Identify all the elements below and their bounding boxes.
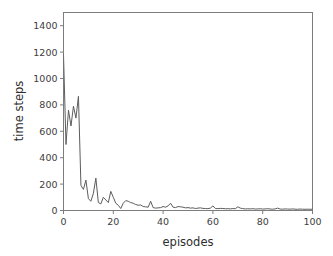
x-tick-label: 40: [157, 216, 169, 227]
x-tick-label: 0: [60, 216, 66, 227]
x-tick-label: 100: [303, 216, 321, 227]
chart-figure: 0200400600800100012001400 020406080100 e…: [0, 0, 333, 256]
y-tick-label: 600: [39, 126, 57, 137]
x-axis-title: episodes: [163, 235, 214, 249]
y-axis-title: time steps: [12, 81, 26, 142]
x-tick-label: 20: [107, 216, 119, 227]
y-tick-label: 1200: [33, 47, 57, 58]
y-tick-label: 400: [39, 152, 57, 163]
x-tick-label: 60: [207, 216, 219, 227]
y-tick-label: 1000: [33, 73, 57, 84]
y-tick-label: 0: [51, 205, 57, 216]
x-tick-label: 80: [257, 216, 269, 227]
y-tick-label: 1400: [33, 20, 57, 31]
y-tick-label: 800: [39, 99, 57, 110]
y-tick-label: 200: [39, 179, 57, 190]
line-chart-canvas: 0200400600800100012001400 020406080100 e…: [0, 0, 333, 256]
